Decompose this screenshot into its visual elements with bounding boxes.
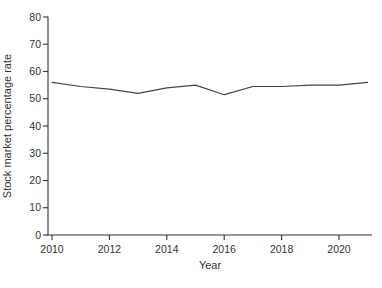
y-tick-label: 10: [29, 201, 41, 213]
x-axis-title: Year: [199, 259, 222, 271]
series-line: [52, 82, 368, 94]
y-tick-label: 50: [29, 92, 41, 104]
x-tick-label: 2018: [270, 243, 294, 255]
x-tick-label: 2016: [213, 243, 237, 255]
y-tick-label: 60: [29, 65, 41, 77]
x-tick-label: 2014: [155, 243, 179, 255]
y-tick-label: 20: [29, 174, 41, 186]
line-chart: 01020304050607080 2010201220142016201820…: [0, 0, 382, 288]
y-tick-label: 40: [29, 120, 41, 132]
y-tick-label: 30: [29, 147, 41, 159]
y-tick-label: 0: [35, 229, 41, 241]
x-tick-label: 2012: [98, 243, 122, 255]
chart-figure: 01020304050607080 2010201220142016201820…: [0, 0, 382, 288]
y-tick-label: 80: [29, 11, 41, 23]
y-axis-title: Stock market percentage rate: [1, 54, 13, 198]
y-tick-label: 70: [29, 38, 41, 50]
x-tick-label: 2010: [40, 243, 64, 255]
x-tick-label: 2020: [327, 243, 351, 255]
y-axis-ticks: 01020304050607080: [29, 11, 48, 241]
x-axis-ticks: 201020122014201620182020: [40, 235, 351, 255]
